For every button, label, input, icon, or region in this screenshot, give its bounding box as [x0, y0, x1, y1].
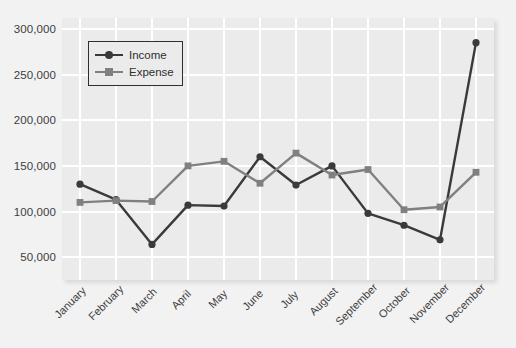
y-tick-label: 250,000	[0, 69, 56, 81]
legend-label-income: Income	[129, 49, 167, 61]
data-point-income-june	[256, 153, 263, 160]
y-tick-label: 300,000	[0, 23, 56, 35]
data-point-income-april	[184, 202, 191, 209]
x-tick-label-september: September	[333, 281, 380, 328]
legend-label-expense: Expense	[129, 66, 174, 78]
data-point-income-august	[328, 162, 335, 169]
legend-item-income: Income	[95, 46, 174, 63]
x-tick-label-july: July	[278, 288, 300, 310]
legend-marker-income	[95, 49, 123, 61]
data-point-income-may	[220, 202, 227, 209]
series-line-expense	[80, 153, 476, 210]
y-tick-label: 150,000	[0, 160, 56, 172]
data-point-expense-november	[437, 204, 444, 211]
data-point-income-september	[364, 210, 371, 217]
legend-marker-expense	[95, 66, 123, 78]
data-point-income-january	[76, 181, 83, 188]
data-point-expense-february	[113, 197, 120, 204]
data-point-expense-december	[473, 169, 480, 176]
x-tick-label-february: February	[86, 283, 126, 323]
y-axis-labels: 50,000100,000150,000200,000250,000300,00…	[0, 18, 56, 280]
y-tick-label: 200,000	[0, 114, 56, 126]
data-point-income-october	[400, 222, 407, 229]
data-point-income-december	[472, 39, 479, 46]
x-tick-label-june: June	[240, 287, 265, 312]
y-tick-label: 50,000	[0, 251, 56, 263]
data-point-expense-july	[293, 150, 300, 157]
data-point-income-march	[148, 241, 155, 248]
legend-item-expense: Expense	[95, 63, 174, 80]
x-tick-label-august: August	[307, 285, 340, 318]
x-axis-labels: JanuaryFebruaryMarchAprilMayJuneJulyAugu…	[62, 284, 494, 348]
y-tick-label: 100,000	[0, 206, 56, 218]
data-point-expense-may	[221, 158, 228, 165]
data-point-income-july	[292, 181, 299, 188]
data-point-expense-september	[365, 166, 372, 173]
data-point-expense-april	[185, 162, 192, 169]
data-point-expense-january	[77, 199, 84, 206]
x-tick-label-march: March	[129, 286, 159, 316]
chart-legend: Income Expense	[88, 41, 183, 86]
x-tick-label-january: January	[52, 284, 88, 320]
data-point-income-november	[436, 236, 443, 243]
line-chart: 50,000100,000150,000200,000250,000300,00…	[0, 0, 516, 348]
data-point-expense-june	[257, 180, 264, 187]
x-tick-label-october: October	[376, 284, 412, 320]
data-point-expense-march	[149, 198, 156, 205]
data-point-expense-october	[401, 206, 408, 213]
data-point-expense-august	[329, 172, 336, 179]
x-tick-label-april: April	[169, 287, 193, 311]
x-tick-label-may: May	[206, 288, 229, 311]
